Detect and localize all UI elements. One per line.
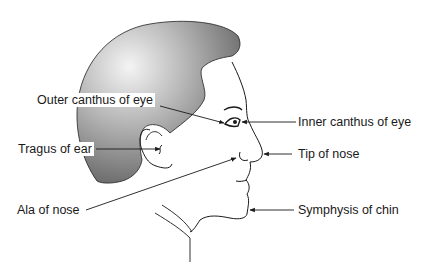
eye-pupil xyxy=(233,120,237,124)
nose-ala-line xyxy=(239,152,248,161)
mouth-line xyxy=(236,180,247,181)
label-inner-canthus-of-eye: Inner canthus of eye xyxy=(296,115,413,129)
collar-line-outer xyxy=(155,213,190,262)
head-profile-illustration xyxy=(0,0,428,269)
label-tip-of-nose: Tip of nose xyxy=(296,147,361,161)
label-ala-of-nose: Ala of nose xyxy=(15,203,82,217)
label-tragus-of-ear: Tragus of ear xyxy=(16,142,94,156)
label-outer-canthus-of-eye: Outer canthus of eye xyxy=(35,93,155,107)
ear-helix xyxy=(146,132,162,140)
eyebrow-line xyxy=(224,107,242,110)
collar-line-inner xyxy=(162,205,192,232)
label-symphysis-of-chin: Symphysis of chin xyxy=(296,203,401,217)
tragus-shape xyxy=(159,145,162,154)
eye-shape xyxy=(225,118,240,126)
